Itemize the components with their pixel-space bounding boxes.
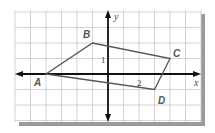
vertex-label-d: D: [158, 95, 165, 106]
vertex-label-b: B: [83, 29, 90, 40]
x-tick-label-2: 2: [137, 78, 142, 88]
y-axis-label: y: [113, 11, 119, 22]
coordinate-plane-figure: y x 1 2 A B C D: [0, 0, 215, 133]
x-axis-label: x: [193, 77, 199, 88]
y-tick-label-1: 1: [101, 55, 106, 65]
vertex-label-a: A: [33, 77, 41, 88]
vertex-label-c: C: [173, 48, 181, 59]
coordinate-plane-svg: y x 1 2 A B C D: [0, 0, 215, 133]
shadow-right: [201, 14, 205, 126]
shadow-bottom: [19, 122, 205, 126]
